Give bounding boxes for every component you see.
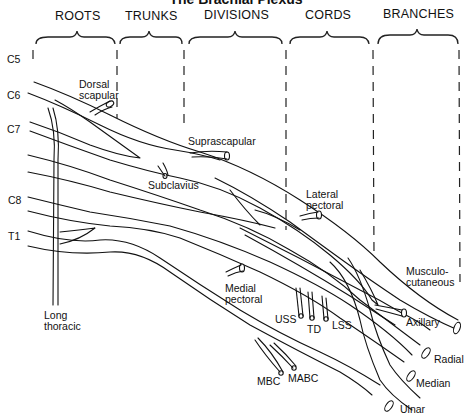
- root-label-c7: C7: [7, 124, 20, 135]
- label-td: TD: [307, 324, 321, 335]
- lower-trunk: [28, 197, 412, 395]
- root-label-c8: C8: [8, 195, 21, 206]
- label-musculocutaneous: Musculo- cutaneous: [406, 266, 454, 288]
- root-label-t1: T1: [8, 231, 20, 242]
- label-mbc: MBC: [257, 376, 280, 387]
- label-medial-pectoral: Medial pectoral: [225, 283, 262, 305]
- label-uss: USS: [275, 314, 297, 325]
- label-subclavius: Subclavius: [148, 180, 199, 191]
- label-radial: Radial: [434, 354, 464, 365]
- label-ulnar: Ulnar: [400, 404, 425, 415]
- root-label-c6: C6: [7, 90, 20, 101]
- label-median: Median: [416, 378, 450, 389]
- long-thoracic-nerve: [48, 108, 58, 305]
- label-axillary: Axillary: [406, 317, 440, 328]
- label-suprascapular: Suprascapular: [188, 136, 256, 147]
- middle-trunk: [28, 155, 420, 345]
- root-label-c5: C5: [7, 54, 20, 65]
- label-dorsal-scapular: Dorsal scapular: [79, 79, 119, 101]
- label-mabc: MABC: [288, 373, 318, 384]
- label-long-thoracic: Long thoracic: [44, 310, 81, 332]
- label-lss: LSS: [332, 320, 352, 331]
- brachial-plexus-drawing: [0, 0, 472, 420]
- label-lateral-pectoral: Lateral pectoral: [306, 189, 343, 211]
- section-braces: [36, 29, 458, 44]
